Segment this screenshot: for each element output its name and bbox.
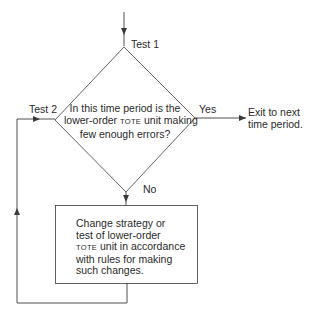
process-line-5: such changes. — [76, 265, 196, 277]
decision-line-2-post: unit making — [141, 114, 198, 126]
process-text: Change strategy or test of lower-order T… — [76, 218, 196, 277]
tote-smallcaps: TOTE — [76, 243, 97, 252]
exit-line-2: time period. — [248, 118, 303, 130]
decision-line-1: In this time period is the — [64, 102, 186, 114]
exit-line-1: Exit to next — [248, 106, 303, 118]
process-line-3: TOTE unit in accordance — [76, 241, 196, 254]
process-line-1: Change strategy or — [76, 218, 196, 230]
decision-line-3: few enough errors? — [64, 128, 186, 140]
decision-question: In this time period is the lower-order T… — [64, 102, 186, 140]
decision-line-2: lower-order TOTE unit making — [64, 114, 186, 128]
exit-label: Exit to next time period. — [248, 106, 303, 130]
test2-label: Test 2 — [29, 103, 57, 115]
tote-smallcaps: TOTE — [120, 117, 141, 126]
test1-label: Test 1 — [131, 38, 159, 50]
no-label: No — [143, 183, 156, 195]
yes-label: Yes — [199, 103, 216, 115]
process-line-3-post: unit in accordance — [97, 240, 185, 252]
decision-line-2-pre: lower-order — [64, 114, 120, 126]
